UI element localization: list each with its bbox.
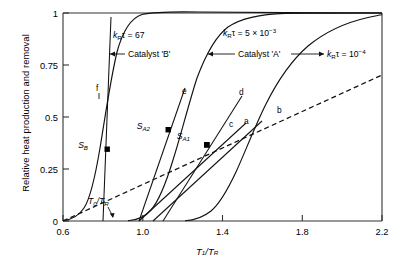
arrow-left-icon (110, 52, 115, 57)
callout-t0-sub2: R (104, 200, 109, 207)
annotation-kr-tau-5e-3-val: 5 × 10 (245, 28, 269, 38)
callout-catalyst-b-label: Catalyst 'B' (128, 49, 171, 59)
point-sa1-label-sub: A1 (181, 135, 190, 142)
curve-label-f: f (96, 83, 99, 93)
curve-label-e: e (182, 86, 187, 96)
point-sb-label: SB (78, 140, 88, 151)
figure-container: Relative heat production and removal T1/… (0, 0, 407, 272)
callout-t0-over-tr-label: T0/TR (88, 196, 109, 207)
arrow-down-icon (110, 213, 115, 218)
y-axis-tick-labels: 0 0.25 0.5 0.75 1 (40, 9, 58, 227)
heat-removal-line-b (63, 75, 382, 221)
heat-removal-line-d (163, 96, 242, 221)
y-tick-label-0: 0 (53, 217, 58, 227)
heat-production-curve-catalyst-a-5e-3 (128, 13, 382, 221)
point-sb-marker (105, 147, 110, 152)
annotation-kr-tau-5e-3-exp: −3 (269, 27, 277, 34)
x-tick-label-14: 1.4 (216, 227, 229, 237)
chart-plot-area: 0 0.25 0.5 0.75 1 0.6 1.0 1.4 1.8 2.2 (0, 0, 407, 272)
point-sa2-marker (166, 127, 171, 132)
point-sa2-label: SA2 (137, 121, 151, 132)
x-tick-label-18: 1.8 (296, 227, 309, 237)
axes-frame (63, 13, 382, 221)
callout-catalyst-b: Catalyst 'B' (110, 49, 171, 59)
x-tick-label-10: 1.0 (136, 227, 149, 237)
point-sa1-label: SA1 (177, 131, 190, 142)
x-axis-tick-labels: 0.6 1.0 1.4 1.8 2.2 (57, 227, 389, 237)
annotation-kr-tau-67-val: 67 (135, 30, 145, 40)
heat-removal-line-c (139, 123, 246, 221)
x-tick-label-06: 0.6 (57, 227, 70, 237)
curve-label-c: c (229, 119, 233, 129)
x-tick-label-22: 2.2 (376, 227, 389, 237)
curve-label-a: a (244, 116, 249, 126)
callout-catalyst-a: Catalyst 'A' (208, 49, 324, 59)
steady-state-labels: SB SA2 SA1 (78, 121, 190, 151)
curve-label-d: d (239, 87, 244, 97)
y-tick-label-05: 0.5 (45, 113, 58, 123)
arrow-right-icon (319, 52, 324, 57)
y-tick-label-1: 1 (53, 9, 58, 19)
annotation-kr-tau-1e-4: kRτ = 10−4 (327, 48, 366, 60)
point-sa2-label-sub: A2 (141, 125, 150, 132)
annotation-kr-tau-1e-4-val: 10 (349, 49, 359, 59)
annotation-kr-tau-67-eq: = (125, 30, 135, 40)
point-sb-label-sub: B (84, 144, 88, 151)
annotation-kr-tau-5e-3-eq: = (235, 28, 245, 38)
annotation-kr-tau-5e-3: kRτ = 5 × 10−3 (223, 27, 277, 39)
heat-production-curve-catalyst-a-1e-4 (185, 15, 382, 221)
curve-label-b: b (277, 105, 282, 115)
y-tick-label-075: 0.75 (40, 61, 58, 71)
annotation-kr-tau-67: kRτ = 67 (113, 30, 145, 41)
y-axis-ticks (63, 13, 69, 221)
annotation-kr-tau-1e-4-exp: −4 (359, 48, 367, 55)
heat-production-curve-catalyst-b (63, 12, 382, 221)
y-tick-label-025: 0.25 (40, 165, 58, 175)
x-axis-ticks (63, 215, 382, 221)
point-sa1-marker (204, 142, 210, 148)
annotation-kr-tau-1e-4-eq: = (339, 49, 349, 59)
callout-catalyst-a-label: Catalyst 'A' (238, 49, 281, 59)
steady-state-markers (105, 127, 210, 152)
heat-removal-line-e (139, 88, 185, 221)
